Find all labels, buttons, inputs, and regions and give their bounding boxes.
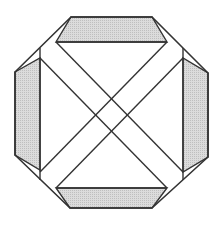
band-right: [183, 58, 208, 172]
octagon-diagram: [0, 0, 219, 226]
diagonal-line-1: [56, 42, 183, 172]
diagonal-line-3: [40, 42, 167, 172]
band-left: [15, 58, 40, 170]
band-bottom: [56, 188, 167, 208]
band-top: [56, 17, 167, 42]
octagon-outline: [15, 17, 208, 208]
diagonal-line-2: [40, 58, 167, 188]
diagonal-line-4: [56, 58, 183, 188]
shaded-bands: [15, 17, 208, 208]
diagram-lines: [40, 42, 183, 188]
